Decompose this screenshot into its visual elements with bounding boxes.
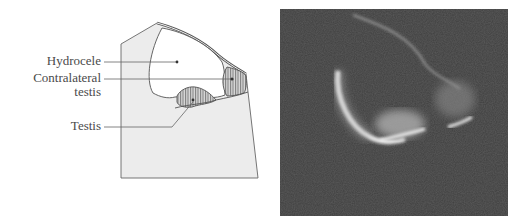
figure: Hydrocele Contralateral testis Testis (0, 0, 528, 224)
diagram-drawing (0, 0, 270, 224)
hydrocele-diagram: Hydrocele Contralateral testis Testis (0, 0, 270, 224)
label-hydrocele: Hydrocele (47, 54, 101, 68)
label-contralateral: Contralateral (33, 71, 101, 85)
label-contralateral-testis: testis (74, 85, 101, 99)
ultrasound-image (280, 9, 508, 216)
ultrasound-photo (280, 9, 508, 216)
label-testis: Testis (71, 119, 101, 133)
